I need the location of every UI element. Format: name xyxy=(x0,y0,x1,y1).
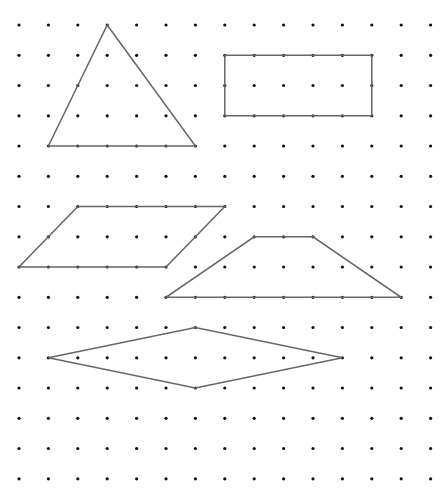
grid-dot xyxy=(194,84,197,87)
grid-dot xyxy=(17,326,20,329)
grid-dot xyxy=(370,326,373,329)
grid-dot xyxy=(429,477,432,480)
grid-dot xyxy=(106,447,109,450)
grid-dot xyxy=(311,447,314,450)
grid-dot xyxy=(400,417,403,420)
grid-dot xyxy=(194,477,197,480)
grid-dot xyxy=(253,84,256,87)
grid-dot xyxy=(223,23,226,26)
grid-dot xyxy=(47,54,50,57)
grid-dot xyxy=(370,477,373,480)
grid-dot xyxy=(76,235,79,238)
grid-dot xyxy=(429,235,432,238)
grid-dot xyxy=(429,205,432,208)
grid-dot xyxy=(164,23,167,26)
grid-dot xyxy=(370,386,373,389)
grid-dot xyxy=(253,356,256,359)
grid-dot xyxy=(47,23,50,26)
grid-dot xyxy=(311,326,314,329)
grid-dot xyxy=(135,114,138,117)
grid-dot xyxy=(282,386,285,389)
grid-dot xyxy=(194,175,197,178)
grid-dot xyxy=(282,205,285,208)
grid-dot xyxy=(282,23,285,26)
grid-dot xyxy=(341,144,344,147)
grid-dot xyxy=(253,265,256,268)
grid-dot xyxy=(164,114,167,117)
grid-dot xyxy=(341,447,344,450)
grid-dot xyxy=(429,386,432,389)
grid-dot xyxy=(223,175,226,178)
grid-dot xyxy=(17,235,20,238)
grid-dot xyxy=(370,144,373,147)
grid-dot xyxy=(106,356,109,359)
grid-dot xyxy=(311,356,314,359)
grid-dot xyxy=(164,54,167,57)
grid-dot xyxy=(282,326,285,329)
grid-dot xyxy=(370,265,373,268)
grid-dot xyxy=(17,114,20,117)
grid-dot xyxy=(17,205,20,208)
grid-dot xyxy=(429,296,432,299)
grid-dot xyxy=(47,296,50,299)
grid-dot xyxy=(135,235,138,238)
grid-dot xyxy=(164,417,167,420)
grid-dot xyxy=(282,175,285,178)
grid-dot xyxy=(429,265,432,268)
grid-dot xyxy=(253,447,256,450)
grid-dot xyxy=(106,54,109,57)
grid-dot xyxy=(311,175,314,178)
grid-dot xyxy=(106,326,109,329)
grid-dot xyxy=(311,205,314,208)
grid-dot xyxy=(370,23,373,26)
grid-dot xyxy=(76,447,79,450)
grid-dot xyxy=(429,356,432,359)
grid-dot xyxy=(135,386,138,389)
grid-dot xyxy=(400,23,403,26)
grid-dot xyxy=(282,477,285,480)
grid-dot xyxy=(76,114,79,117)
grid-dot xyxy=(47,386,50,389)
dot-grid-diagram: TriangleRectangleParallelogramTrapezoidR… xyxy=(0,0,446,499)
grid-dot xyxy=(311,23,314,26)
grid-dot xyxy=(400,84,403,87)
grid-dot xyxy=(194,54,197,57)
grid-dot xyxy=(400,386,403,389)
grid-dot xyxy=(76,356,79,359)
grid-dot xyxy=(76,23,79,26)
grid-dot xyxy=(164,326,167,329)
grid-dot xyxy=(106,114,109,117)
grid-dot xyxy=(194,23,197,26)
grid-dot xyxy=(253,205,256,208)
grid-dot xyxy=(253,326,256,329)
grid-dot xyxy=(341,265,344,268)
grid-dot xyxy=(341,205,344,208)
grid-dot xyxy=(282,144,285,147)
grid-dot xyxy=(253,144,256,147)
grid-dot xyxy=(400,114,403,117)
grid-dot xyxy=(164,235,167,238)
grid-dot xyxy=(400,235,403,238)
grid-dot xyxy=(341,23,344,26)
grid-dot xyxy=(135,417,138,420)
grid-dot xyxy=(17,356,20,359)
grid-dot xyxy=(429,54,432,57)
grid-dot xyxy=(400,175,403,178)
grid-dot xyxy=(341,235,344,238)
grid-dot xyxy=(223,447,226,450)
grid-dot xyxy=(253,23,256,26)
grid-dot xyxy=(311,386,314,389)
grid-dot xyxy=(164,84,167,87)
grid-dot xyxy=(135,477,138,480)
grid-dot xyxy=(282,84,285,87)
grid-dot xyxy=(135,356,138,359)
grid-dot xyxy=(194,265,197,268)
grid-dot xyxy=(194,356,197,359)
grid-dot xyxy=(429,175,432,178)
grid-dot xyxy=(164,175,167,178)
grid-dot xyxy=(341,175,344,178)
rectangle-shape: Rectangle xyxy=(225,55,372,116)
grid-dot xyxy=(106,235,109,238)
grid-dot xyxy=(47,447,50,450)
grid-dot xyxy=(17,417,20,420)
